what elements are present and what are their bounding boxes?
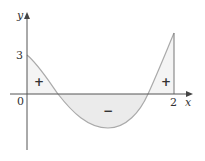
signed-area-diagram: y x 0 2 3 + − + — [0, 0, 205, 161]
minus-sign-middle: − — [103, 104, 113, 118]
plus-sign-right: + — [161, 75, 171, 89]
plus-sign-left: + — [34, 75, 44, 89]
origin-label: 0 — [17, 95, 24, 108]
y-axis-arrow-icon — [24, 12, 30, 19]
x-tick-label-2: 2 — [170, 96, 177, 109]
y-axis-label: y — [16, 9, 24, 22]
x-axis-label: x — [185, 96, 192, 109]
y-tick-label-3: 3 — [16, 49, 23, 62]
